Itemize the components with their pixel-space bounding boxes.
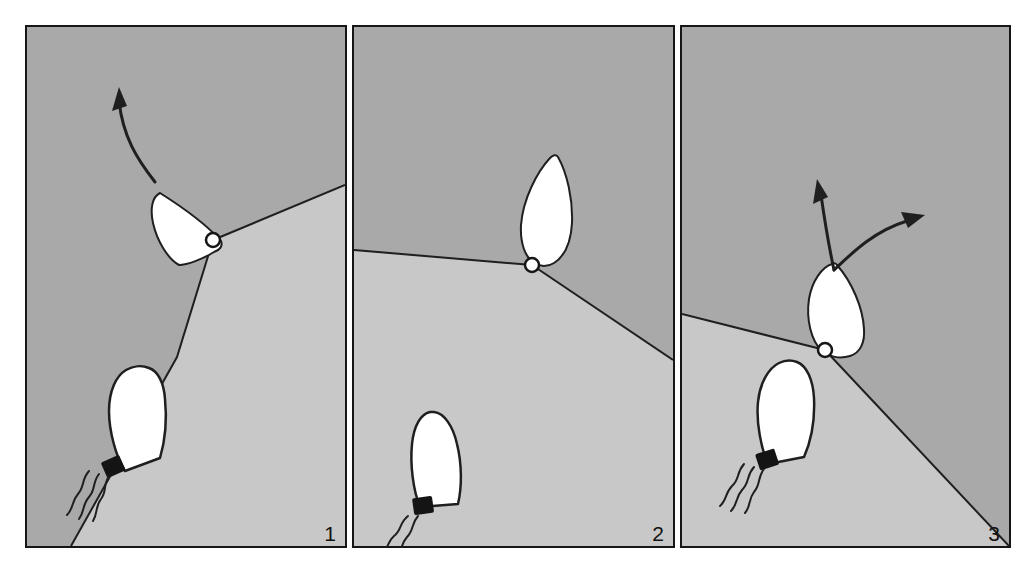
basal-body-square bbox=[412, 496, 434, 516]
panel-3-canvas bbox=[682, 27, 1009, 546]
panel-number-1: 1 bbox=[324, 523, 336, 544]
junction-node bbox=[818, 343, 832, 357]
flagellated-cell-body bbox=[758, 361, 815, 464]
figure-root: 1 2 bbox=[0, 0, 1036, 573]
junction-node bbox=[206, 233, 220, 247]
junction-node bbox=[525, 258, 539, 272]
panel-2: 2 bbox=[352, 25, 675, 548]
panel-1: 1 bbox=[25, 25, 347, 548]
panel-2-canvas bbox=[354, 27, 673, 546]
flagellated-cell-body bbox=[109, 366, 166, 471]
panel-1-canvas bbox=[27, 27, 345, 546]
panel-3: 3 bbox=[680, 25, 1011, 548]
panel-number-2: 2 bbox=[652, 523, 664, 544]
panel-number-3: 3 bbox=[988, 523, 1000, 544]
